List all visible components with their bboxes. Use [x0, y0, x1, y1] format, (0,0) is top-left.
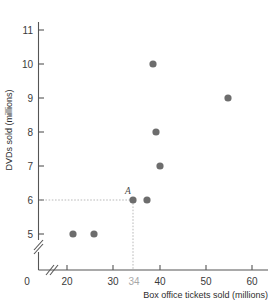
data-point [69, 230, 76, 237]
y-tick-label-9: 9 [27, 93, 33, 104]
data-point [90, 230, 97, 237]
x-tick-label-34-highlight: 34 [128, 276, 140, 287]
data-point [149, 60, 156, 67]
y-tick-label-8: 8 [27, 127, 33, 138]
data-point-label-a: A [124, 186, 131, 196]
y-tick-label-5: 5 [27, 229, 33, 240]
x-axis-title: Box office tickets sold (millions) [143, 290, 268, 300]
x-tick-label-0: 0 [24, 276, 30, 287]
x-tick-label-50: 50 [200, 276, 212, 287]
data-point [224, 94, 231, 101]
data-point [156, 162, 163, 169]
y-axis-title: DVDs sold (millions) [4, 89, 14, 170]
plot-canvas: 11 10 9 8 7 6 5 0 20 30 34 40 50 60 [0, 0, 277, 302]
x-tick-label-40: 40 [154, 276, 166, 287]
y-tick-label-6: 6 [27, 195, 33, 206]
x-tick-label-60: 60 [246, 276, 258, 287]
y-tick-label-7: 7 [27, 161, 33, 172]
data-point [152, 128, 159, 135]
y-axis-ticks [39, 30, 45, 234]
data-point [143, 196, 150, 203]
data-point-a [129, 196, 136, 203]
data-point-series [69, 60, 231, 237]
x-tick-label-20: 20 [61, 276, 73, 287]
y-tick-label-11: 11 [23, 25, 34, 36]
y-tick-label-10: 10 [22, 59, 34, 70]
scatter-plot-figure: 11 10 9 8 7 6 5 0 20 30 34 40 50 60 [0, 0, 277, 302]
x-axis-ticks [67, 265, 252, 270]
x-tick-label-30: 30 [107, 276, 119, 287]
